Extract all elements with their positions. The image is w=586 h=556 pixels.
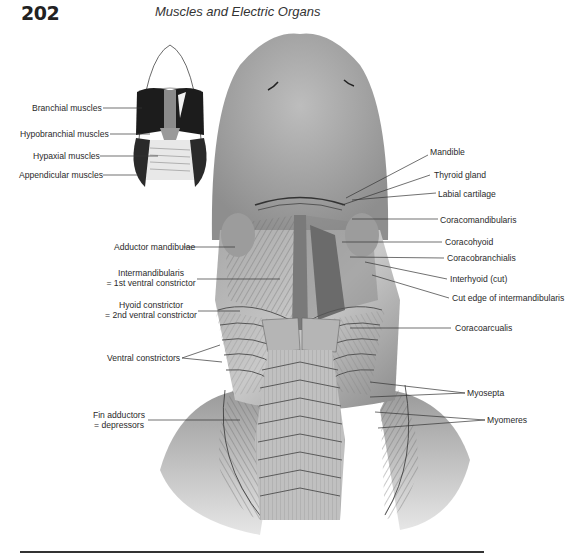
label-thyroid-gland: Thyroid gland — [434, 170, 486, 180]
label-coracomandibularis: Coracomandibularis — [440, 215, 516, 225]
label-hyoid-constrictor-line2: = 2nd ventral constrictor — [102, 310, 200, 320]
label-hypaxial-muscles: Hypaxial muscles — [33, 151, 100, 161]
label-coracobranchialis: Coracobranchialis — [447, 253, 516, 263]
label-intermandibularis-line1: Intermandibularis — [102, 268, 200, 278]
inset-diagram — [133, 45, 206, 187]
label-hyoid-constrictor-line1: Hyoid constrictor — [102, 300, 200, 310]
label-coracohyoid: Coracohyoid — [445, 237, 493, 247]
label-hypobranchial-muscles: Hypobranchial muscles — [20, 129, 109, 139]
label-hyoid-constrictor: Hyoid constrictor = 2nd ventral constric… — [102, 300, 200, 320]
label-interhyoid-cut: Interhyoid (cut) — [450, 274, 507, 284]
label-fin-adductors: Fin adductors = depressors — [88, 410, 150, 430]
label-adductor-mandibulae: Adductor mandibulae — [114, 242, 195, 252]
bottom-rule-divider — [20, 551, 484, 553]
label-appendicular-muscles: Appendicular muscles — [19, 170, 103, 180]
label-labial-cartilage: Labial cartilage — [438, 189, 496, 199]
label-mandible: Mandible — [430, 147, 465, 157]
label-ventral-constrictors: Ventral constrictors — [107, 353, 180, 363]
label-intermandibularis: Intermandibularis = 1st ventral constric… — [102, 268, 200, 288]
label-cut-edge-intermandibularis: Cut edge of intermandibularis — [452, 293, 564, 303]
shark-body — [160, 34, 470, 535]
label-intermandibularis-line2: = 1st ventral constrictor — [102, 278, 200, 288]
label-myosepta: Myosepta — [467, 388, 504, 398]
label-coracoarcualis: Coracoarcualis — [455, 323, 512, 333]
label-myomeres: Myomeres — [487, 415, 527, 425]
label-branchial-muscles: Branchial muscles — [32, 103, 102, 113]
label-fin-adductors-line2: = depressors — [88, 420, 150, 430]
label-fin-adductors-line1: Fin adductors — [88, 410, 150, 420]
